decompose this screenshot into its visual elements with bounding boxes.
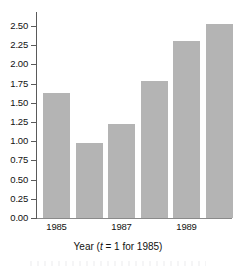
x-axis-tick-label: 1987 xyxy=(99,221,145,233)
bar xyxy=(206,24,233,218)
x-axis-tick-label: 1985 xyxy=(34,221,80,233)
x-axis-title-lead: Year ( xyxy=(74,241,100,252)
bar xyxy=(76,143,103,218)
bar xyxy=(43,93,70,218)
bar xyxy=(141,81,168,218)
bar-chart-figure: 2.502.252.001.751.501.251.000.750.500.25… xyxy=(0,0,236,269)
bar xyxy=(173,41,200,218)
x-axis-title-tail: = 1 for 1985) xyxy=(103,241,163,252)
scan-artifact-strip xyxy=(30,261,206,266)
bar xyxy=(108,124,135,218)
x-axis-tick-labels: 198519871989 xyxy=(0,221,236,235)
x-axis-title: Year (t = 1 for 1985) xyxy=(0,240,236,253)
x-axis-tick-label: 1989 xyxy=(164,221,210,233)
